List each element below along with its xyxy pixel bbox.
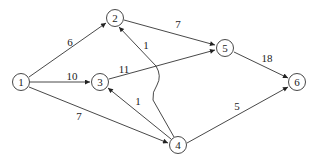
- edge-label-4-3: 1: [135, 95, 141, 107]
- edge-1-4: [29, 87, 168, 143]
- node-5: 5: [217, 40, 234, 57]
- edge-label-5-6: 18: [262, 52, 274, 64]
- node-label-4: 4: [175, 139, 181, 151]
- edge-labels: 6 10 7 7 11 1 1 5 18: [67, 18, 274, 122]
- edge-1-2: [29, 23, 106, 77]
- node-4: 4: [170, 137, 187, 154]
- node-3: 3: [92, 74, 109, 91]
- edge-label-2-5: 7: [175, 18, 181, 30]
- edge-2-5: [124, 20, 215, 45]
- edge-label-1-2: 6: [67, 36, 73, 48]
- edge-label-3-5: 11: [119, 63, 130, 75]
- node-label-1: 1: [18, 76, 24, 88]
- nodes: 1 2 3 4 5 6: [13, 10, 306, 154]
- edge-4-6: [187, 87, 288, 143]
- network-diagram: 6 10 7 7 11 1 1 5 18 1 2 3 4 5: [0, 0, 320, 164]
- edge-label-1-4: 7: [76, 110, 82, 122]
- node-1: 1: [13, 74, 30, 91]
- node-label-6: 6: [294, 76, 300, 88]
- node-2: 2: [107, 10, 124, 27]
- edge-label-4-6: 5: [234, 100, 240, 112]
- node-label-2: 2: [112, 12, 118, 24]
- node-6: 6: [289, 74, 306, 91]
- edge-label-1-3: 10: [67, 70, 79, 82]
- node-label-3: 3: [97, 76, 103, 88]
- edge-label-4-2: 1: [143, 39, 149, 51]
- node-label-5: 5: [222, 42, 228, 54]
